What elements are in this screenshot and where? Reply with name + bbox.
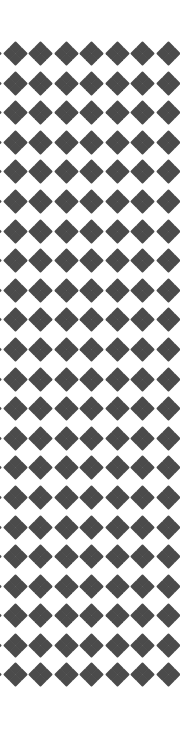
quatrefoil-motif <box>131 428 157 458</box>
quatrefoil-motif <box>4 487 30 517</box>
decorative-pattern-field <box>0 0 180 745</box>
quatrefoil-motif <box>55 280 81 310</box>
quatrefoil-motif <box>55 576 81 606</box>
quatrefoil-motif <box>55 457 81 487</box>
quatrefoil-motif <box>80 576 106 606</box>
quatrefoil-motif <box>131 221 157 251</box>
quatrefoil-motif <box>157 664 181 694</box>
quatrefoil-motif <box>157 605 181 635</box>
quatrefoil-motif <box>131 102 157 132</box>
pattern-row <box>0 221 180 251</box>
pattern-row <box>0 43 180 73</box>
quatrefoil-motif <box>106 221 132 251</box>
quatrefoil-motif <box>157 43 181 73</box>
quatrefoil-motif <box>55 517 81 547</box>
diamond-icon <box>0 521 2 534</box>
diamond-icon <box>0 77 2 90</box>
quatrefoil-motif <box>157 309 181 339</box>
pattern-row <box>0 576 180 606</box>
quatrefoil-motif <box>29 635 55 665</box>
quatrefoil-motif <box>106 339 132 369</box>
quatrefoil-motif <box>157 221 181 251</box>
quatrefoil-motif <box>80 102 106 132</box>
quatrefoil-motif <box>4 576 30 606</box>
quatrefoil-motif <box>80 221 106 251</box>
quatrefoil-motif <box>157 132 181 162</box>
quatrefoil-motif <box>131 487 157 517</box>
pattern-row <box>0 339 180 369</box>
diamond-icon <box>0 609 2 622</box>
quatrefoil-motif <box>29 546 55 576</box>
pattern-row <box>0 664 180 694</box>
quatrefoil-motif <box>4 132 30 162</box>
quatrefoil-motif <box>29 221 55 251</box>
quatrefoil-motif <box>80 191 106 221</box>
quatrefoil-motif <box>55 664 81 694</box>
quatrefoil-motif <box>131 161 157 191</box>
quatrefoil-motif <box>55 221 81 251</box>
pattern-row <box>0 102 180 132</box>
diamond-icon <box>0 402 2 415</box>
quatrefoil-motif <box>55 191 81 221</box>
quatrefoil-motif <box>157 457 181 487</box>
pattern-row <box>0 280 180 310</box>
quatrefoil-motif <box>157 73 181 103</box>
quatrefoil-motif <box>55 161 81 191</box>
quatrefoil-motif <box>4 250 30 280</box>
diamond-icon <box>0 669 2 682</box>
quatrefoil-motif <box>80 428 106 458</box>
quatrefoil-motif <box>131 398 157 428</box>
quatrefoil-motif <box>80 546 106 576</box>
quatrefoil-motif <box>106 664 132 694</box>
quatrefoil-motif <box>55 605 81 635</box>
pattern-canvas <box>0 43 180 694</box>
quatrefoil-motif <box>80 517 106 547</box>
quatrefoil-motif <box>29 487 55 517</box>
quatrefoil-motif <box>131 517 157 547</box>
quatrefoil-motif <box>55 546 81 576</box>
quatrefoil-motif <box>106 517 132 547</box>
quatrefoil-motif <box>55 487 81 517</box>
diamond-icon <box>0 580 2 593</box>
quatrefoil-motif <box>29 398 55 428</box>
quatrefoil-motif <box>80 664 106 694</box>
quatrefoil-motif <box>131 43 157 73</box>
diamond-icon <box>0 106 2 119</box>
quatrefoil-motif <box>4 369 30 399</box>
quatrefoil-motif <box>29 457 55 487</box>
quatrefoil-motif <box>106 428 132 458</box>
pattern-row <box>0 457 180 487</box>
quatrefoil-motif <box>106 635 132 665</box>
diamond-icon <box>0 313 2 326</box>
quatrefoil-motif <box>157 102 181 132</box>
pattern-row <box>0 635 180 665</box>
quatrefoil-motif <box>80 457 106 487</box>
quatrefoil-motif <box>29 73 55 103</box>
quatrefoil-motif <box>106 605 132 635</box>
quatrefoil-motif <box>55 339 81 369</box>
quatrefoil-motif <box>157 280 181 310</box>
quatrefoil-motif <box>4 43 30 73</box>
quatrefoil-motif <box>131 546 157 576</box>
quatrefoil-motif <box>29 576 55 606</box>
quatrefoil-motif <box>80 635 106 665</box>
diamond-icon <box>0 166 2 179</box>
quatrefoil-motif <box>106 280 132 310</box>
diamond-icon <box>0 47 2 60</box>
quatrefoil-motif <box>80 43 106 73</box>
quatrefoil-motif <box>157 339 181 369</box>
quatrefoil-motif <box>29 132 55 162</box>
quatrefoil-motif <box>4 517 30 547</box>
quatrefoil-motif <box>131 457 157 487</box>
pattern-row <box>0 428 180 458</box>
quatrefoil-motif <box>157 517 181 547</box>
quatrefoil-motif <box>4 191 30 221</box>
pattern-row <box>0 398 180 428</box>
diamond-icon <box>0 136 2 149</box>
quatrefoil-motif <box>55 102 81 132</box>
pattern-row <box>0 369 180 399</box>
quatrefoil-motif <box>55 43 81 73</box>
quatrefoil-motif <box>55 398 81 428</box>
diamond-icon <box>0 225 2 238</box>
quatrefoil-motif <box>4 102 30 132</box>
